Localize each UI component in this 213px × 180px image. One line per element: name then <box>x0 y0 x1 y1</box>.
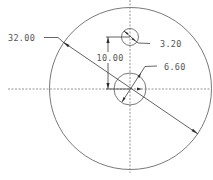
top-hole-diameter-label[interactable]: 3.20 <box>160 39 182 49</box>
hole-spacing-dimension: 10.00 <box>95 37 130 89</box>
arrowhead-icon <box>137 87 142 90</box>
technical-drawing: 32.00 10.00 3.20 6.60 <box>0 0 213 180</box>
arrowhead-icon <box>106 83 109 89</box>
outer-diameter-label[interactable]: 32.00 <box>8 33 35 43</box>
center-hole-diameter-label[interactable]: 6.60 <box>164 62 186 72</box>
hole-spacing-label[interactable]: 10.00 <box>97 53 124 63</box>
arrowhead-icon <box>63 42 70 47</box>
arrowhead-icon <box>192 129 199 134</box>
center-hole-diameter-dimension: 6.60 <box>122 62 186 102</box>
arrowhead-icon <box>106 38 109 44</box>
top-hole-diameter-dimension: 3.20 <box>124 31 182 49</box>
